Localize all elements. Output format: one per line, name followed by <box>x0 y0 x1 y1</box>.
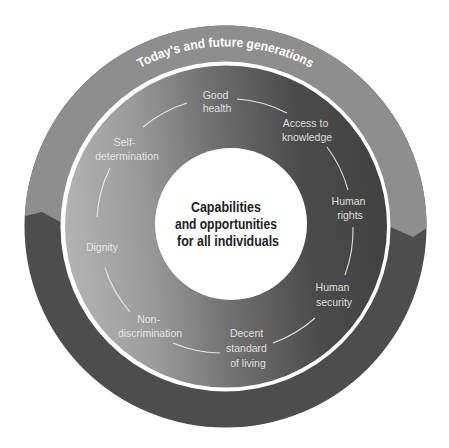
label-line: Non- <box>137 313 160 325</box>
label-line: Access to <box>283 117 329 129</box>
label-line: standard <box>226 342 267 354</box>
label-line: Human <box>332 195 366 207</box>
label-dignity: Dignity <box>86 241 119 253</box>
label-line: security <box>316 296 353 308</box>
label-line: of living <box>230 357 266 369</box>
label-line: Dignity <box>86 241 119 253</box>
label-line: knowledge <box>282 131 332 143</box>
label-line: Human <box>316 281 350 293</box>
center-title-line: and opportunities <box>175 215 277 232</box>
label-line: Good <box>203 89 229 101</box>
label-decent-standard-of-living: Decent standard of living <box>226 327 270 369</box>
label-line: Self- <box>114 136 136 148</box>
label-line: Decent <box>230 327 263 339</box>
human-development-diagram: Today's and future generations Good heal… <box>0 0 449 448</box>
label-line: determination <box>95 150 159 162</box>
label-line: rights <box>337 209 363 221</box>
label-line: health <box>203 102 232 114</box>
center-title-line: Capabilities <box>191 198 261 215</box>
center-title-line: for all individuals <box>177 232 279 249</box>
label-good-health: Good health <box>203 89 232 114</box>
label-line: discrimination <box>118 327 182 339</box>
